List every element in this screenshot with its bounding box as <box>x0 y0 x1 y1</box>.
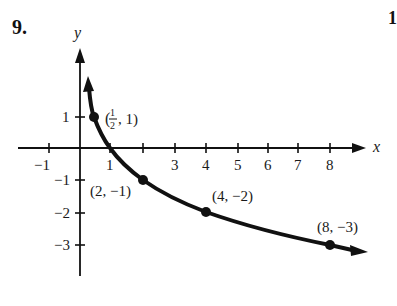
y-tick-label: 1 <box>62 109 70 125</box>
point-label: (2, −1) <box>90 183 131 200</box>
curve-arrow-up-icon <box>83 76 94 92</box>
x-axis-arrow-icon <box>352 143 366 153</box>
x-tick-label: 6 <box>264 157 272 173</box>
curve-arrow-right-icon <box>350 245 368 256</box>
point-two-neg-one <box>138 175 148 185</box>
x-tick-label: 5 <box>234 157 242 173</box>
point-label: (8, −3) <box>317 219 358 236</box>
x-tick-label: 1 <box>106 157 114 173</box>
point-label-rest: , 1) <box>118 111 138 128</box>
data-points <box>89 112 335 250</box>
y-axis-arrow-icon <box>75 48 85 63</box>
x-tick-label: 7 <box>294 157 302 173</box>
y-axis-label: y <box>72 24 82 42</box>
x-tick-label: 3 <box>171 157 179 173</box>
point-label-frac-num: 1 <box>110 107 115 118</box>
x-axis-label: x <box>372 138 380 155</box>
y-tick-label: −3 <box>54 237 70 253</box>
x-tick-label: −1 <box>34 157 50 173</box>
point-label-frac-den: 2 <box>110 120 115 131</box>
x-axis: x −1 1 3 4 5 6 7 8 <box>18 138 380 173</box>
point-eight-neg-three <box>325 240 335 250</box>
x-tick-label: 4 <box>202 157 210 173</box>
y-tick-label: −2 <box>54 205 70 221</box>
y-tick-label: −1 <box>54 172 70 188</box>
x-tick-label: 8 <box>326 157 334 173</box>
y-axis: y 1 −1 −2 −3 <box>54 24 85 276</box>
point-four-neg-two <box>201 207 211 217</box>
point-half-one <box>89 112 99 122</box>
point-label: (4, −2) <box>212 188 253 205</box>
